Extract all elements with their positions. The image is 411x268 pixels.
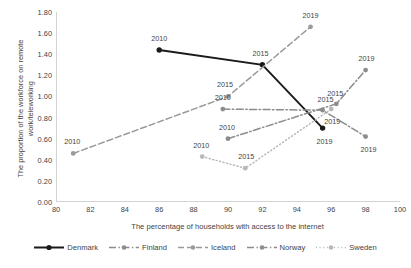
y-tick-label: 0.80 (38, 113, 52, 122)
legend-item-norway[interactable]: Norway (247, 243, 306, 252)
legend-label: Norway (280, 243, 306, 252)
data-point (363, 68, 368, 73)
y-tick-label: 1.20 (38, 71, 52, 80)
y-tick-label: 1.60 (38, 29, 52, 38)
legend-item-iceland[interactable]: Iceland (178, 243, 236, 252)
data-point-label: 2015 (217, 80, 233, 89)
y-tick-label: 0.20 (38, 176, 52, 185)
data-point-label: 2010 (215, 93, 231, 102)
data-point-label: 2015 (238, 152, 254, 161)
legend-label: Sweden (349, 243, 376, 252)
series-iceland (71, 24, 313, 155)
y-tick-label: 0.00 (38, 198, 52, 207)
data-point-label: 2010 (219, 122, 235, 131)
legend-swatch-denmark (34, 243, 64, 252)
data-point (226, 136, 231, 141)
data-point-label: 2019 (324, 117, 340, 126)
data-point (71, 151, 76, 156)
data-point (200, 154, 205, 159)
x-tick-label: 86 (155, 205, 163, 214)
series-sweden (200, 107, 334, 171)
legend-item-finland[interactable]: Finland (109, 243, 167, 252)
x-axis-title: The percentage of households with access… (55, 222, 400, 231)
data-point (308, 24, 313, 29)
data-point (243, 166, 248, 171)
data-point (329, 107, 334, 112)
data-point-label: 2019 (359, 54, 375, 63)
data-point (157, 47, 162, 52)
legend-label: Finland (142, 243, 167, 252)
y-tick-label: 1.80 (38, 8, 52, 17)
plot-area: 0.000.200.400.600.801.001.201.401.601.80… (56, 12, 400, 202)
x-tick-label: 80 (52, 205, 60, 214)
legend-swatch-iceland (178, 243, 208, 252)
chart-legend: DenmarkFinlandIcelandNorwaySweden (0, 243, 411, 252)
x-tick-label: 82 (86, 205, 94, 214)
legend-swatch-finland (109, 243, 139, 252)
data-point-label: 2010 (193, 140, 209, 149)
x-tick-label: 90 (224, 205, 232, 214)
data-point-label: 2010 (64, 137, 80, 146)
x-tick-label: 94 (293, 205, 301, 214)
data-point-label: 2015 (252, 48, 268, 57)
y-tick-label: 1.00 (38, 92, 52, 101)
scatter-line-chart: The proportion of the workforce on remot… (0, 0, 411, 268)
legend-swatch-norway (247, 243, 277, 252)
series-norway (226, 68, 368, 141)
x-tick-label: 100 (394, 205, 406, 214)
data-point (320, 125, 325, 130)
data-point-label: 2010 (151, 34, 167, 43)
y-tick-label: 0.60 (38, 134, 52, 143)
series-lines-layer (56, 12, 400, 202)
x-tick-label: 96 (327, 205, 335, 214)
series-denmark (157, 47, 326, 131)
data-point-label: 2019 (361, 144, 377, 153)
data-point (363, 134, 368, 139)
legend-item-sweden[interactable]: Sweden (316, 243, 376, 252)
x-tick-label: 88 (189, 205, 197, 214)
legend-label: Iceland (211, 243, 236, 252)
data-point-label: 2015 (327, 88, 343, 97)
legend-swatch-sweden (316, 243, 346, 252)
x-tick-label: 84 (121, 205, 129, 214)
y-tick-label: 1.40 (38, 50, 52, 59)
x-tick-label: 98 (361, 205, 369, 214)
legend-label: Denmark (67, 243, 98, 252)
data-point-label: 2019 (303, 10, 319, 19)
x-tick-label: 92 (258, 205, 266, 214)
y-axis-title: The proportion of the workforce on remot… (16, 14, 35, 204)
data-point-label: 2019 (317, 137, 333, 146)
legend-item-denmark[interactable]: Denmark (34, 243, 98, 252)
data-point (220, 107, 225, 112)
y-tick-label: 0.40 (38, 155, 52, 164)
data-point (334, 101, 339, 106)
